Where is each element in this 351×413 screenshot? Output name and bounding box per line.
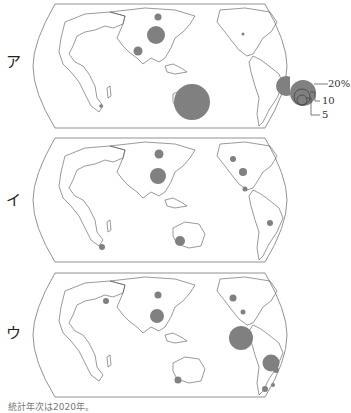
map-panel-a — [25, 2, 290, 130]
proportional-circle — [155, 150, 164, 159]
proportional-circle — [241, 310, 246, 315]
footnote: 統計年次は2020年。 — [8, 400, 94, 413]
proportional-circle — [155, 14, 162, 21]
proportional-circle — [262, 386, 268, 392]
landmass-outline — [107, 220, 111, 232]
map-panel-i — [25, 136, 290, 266]
proportional-circle — [229, 326, 253, 350]
proportional-circle — [273, 367, 279, 373]
landmass-outline — [217, 142, 277, 190]
legend-label-5: 5 — [322, 109, 328, 120]
map-panel-u — [25, 271, 290, 401]
proportional-circle — [243, 187, 248, 192]
proportional-circle — [147, 26, 165, 44]
legend-label-10: 10 — [322, 95, 335, 106]
proportional-circle — [230, 295, 237, 302]
landmass-outline — [59, 281, 125, 381]
landmass-outline — [165, 198, 187, 208]
panel-label-a: ア — [6, 50, 21, 71]
proportional-circle — [174, 84, 210, 120]
proportional-circle — [150, 309, 164, 323]
proportional-circle — [230, 156, 236, 162]
proportional-circle — [271, 383, 275, 387]
landmass-outline — [110, 277, 195, 333]
proportional-circle — [175, 236, 185, 246]
landmass-outline — [59, 146, 125, 246]
legend-label-20: 20% — [328, 78, 350, 89]
landmass-outline — [217, 277, 277, 325]
proportional-circle — [103, 298, 109, 304]
proportional-circle — [242, 33, 245, 36]
landmass-outline — [110, 142, 195, 198]
landmass-outline — [107, 355, 111, 367]
map-frame — [33, 4, 287, 128]
proportional-circle — [175, 377, 182, 384]
proportional-circle — [239, 168, 247, 176]
proportional-circle — [150, 168, 166, 184]
proportional-circle — [134, 47, 143, 56]
panel-label-i: イ — [6, 188, 21, 209]
landmass-outline — [59, 12, 125, 112]
proportional-circle — [155, 292, 162, 299]
proportional-circle — [99, 104, 103, 108]
proportional-circle — [99, 244, 105, 250]
panel-label-u: ウ — [6, 321, 21, 342]
legend: 20% 10 5 — [288, 78, 351, 128]
landmass-outline — [107, 86, 111, 98]
landmass-outline — [249, 190, 283, 260]
landmass-outline — [165, 333, 187, 343]
proportional-circle — [267, 220, 273, 226]
landmass-outline — [217, 8, 277, 56]
landmass-outline — [165, 64, 187, 74]
